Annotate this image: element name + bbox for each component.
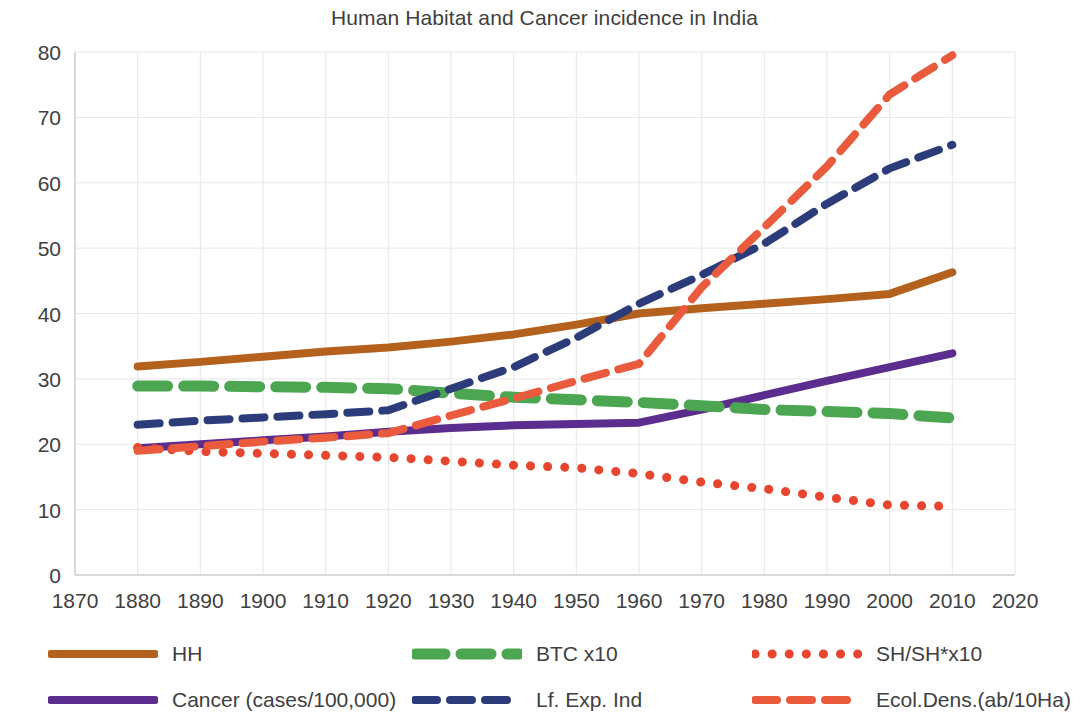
chart-plot-area: 0102030405060708018701880189019001910192… [0,0,1089,725]
series-line [138,353,953,448]
x-axis-tick-label: 2020 [992,589,1039,612]
y-axis-tick-label: 80 [38,41,61,64]
x-axis-tick-label: 1940 [490,589,537,612]
legend-item[interactable]: Lf. Exp. Ind [412,678,642,722]
legend-item-label: Cancer (cases/100,000) [172,688,396,712]
x-axis-tick-label: 1990 [804,589,851,612]
legend-swatch-icon [752,689,862,711]
legend-swatch-icon [412,689,522,711]
x-axis-tick-label: 1900 [240,589,287,612]
x-axis-tick-label: 1910 [302,589,349,612]
legend-item[interactable]: BTC x10 [412,632,618,676]
legend-item-label: Lf. Exp. Ind [536,688,642,712]
chart-container: Human Habitat and Cancer incidence in In… [0,0,1089,725]
x-axis-tick-label: 1930 [428,589,475,612]
legend-item-label: BTC x10 [536,642,618,666]
x-axis-tick-label: 1950 [553,589,600,612]
x-axis-tick-label: 1980 [741,589,788,612]
y-axis-tick-label: 20 [38,433,61,456]
y-axis-tick-label: 50 [38,237,61,260]
legend-item-label: SH/SH*x10 [876,642,982,666]
chart-legend: HHBTC x10SH/SH*x10Cancer (cases/100,000)… [0,628,1089,724]
legend-row: Cancer (cases/100,000)Lf. Exp. IndEcol.D… [0,678,1089,722]
legend-item[interactable]: Cancer (cases/100,000) [48,678,396,722]
x-axis-tick-label: 1970 [678,589,725,612]
legend-swatch-icon [48,643,158,665]
legend-swatch-icon [412,643,522,665]
x-axis-tick-label: 1880 [114,589,161,612]
legend-item[interactable]: SH/SH*x10 [752,632,982,676]
y-axis-tick-label: 40 [38,303,61,326]
x-axis-tick-label: 2000 [866,589,913,612]
legend-item[interactable]: HH [48,632,202,676]
y-axis-tick-label: 60 [38,172,61,195]
x-axis-tick-label: 1920 [365,589,412,612]
x-axis-tick-label: 1890 [177,589,224,612]
legend-swatch-icon [48,689,158,711]
y-axis-tick-label: 10 [38,499,61,522]
legend-item[interactable]: Ecol.Dens.(ab/10Ha) [752,678,1071,722]
series-line [138,448,953,507]
x-axis-tick-label: 1960 [616,589,663,612]
x-axis-tick-label: 2010 [929,589,976,612]
series-line [138,386,953,418]
legend-item-label: HH [172,642,202,666]
y-axis-tick-label: 30 [38,368,61,391]
legend-item-label: Ecol.Dens.(ab/10Ha) [876,688,1071,712]
y-axis-tick-label: 0 [49,564,61,587]
y-axis-tick-label: 70 [38,106,61,129]
legend-row: HHBTC x10SH/SH*x10 [0,632,1089,676]
legend-swatch-icon [752,643,862,665]
x-axis-tick-label: 1870 [52,589,99,612]
